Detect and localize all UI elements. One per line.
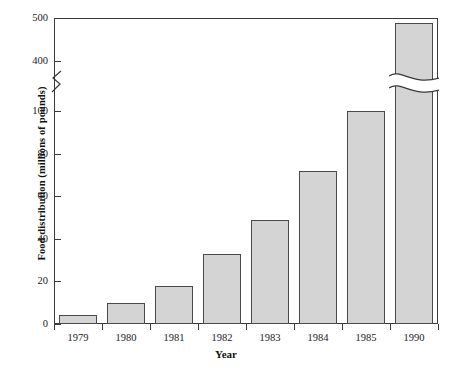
y-axis-break-icon (47, 70, 63, 94)
x-axis-title: Year (0, 348, 452, 360)
x-tick-mark (390, 324, 391, 330)
y-tick-label: 60 (0, 191, 48, 201)
bar-1985 (347, 111, 385, 324)
x-tick-mark (150, 324, 151, 330)
x-tick-mark (102, 324, 103, 330)
y-tick-mark (54, 196, 61, 197)
bar-1984 (299, 171, 337, 324)
y-tick-mark (54, 281, 61, 282)
x-tick-mark (246, 324, 247, 330)
y-tick-label: 0 (0, 319, 48, 329)
y-tick-label: 500 (0, 13, 48, 23)
y-tick-mark (54, 111, 61, 112)
y-tick-mark (54, 239, 61, 240)
y-tick-mark (54, 61, 61, 62)
x-tick-mark (294, 324, 295, 330)
x-tick-mark (198, 324, 199, 330)
y-tick-label: 80 (0, 149, 48, 159)
y-tick-label: 20 (0, 276, 48, 286)
bar-1979 (59, 315, 97, 324)
bar-1980 (107, 303, 145, 324)
bar-1982 (203, 254, 241, 324)
y-tick-label: 40 (0, 234, 48, 244)
y-tick-label: 100 (0, 106, 48, 116)
bar-1990 (395, 23, 433, 324)
x-tick-label-1990: 1990 (384, 332, 444, 343)
bar-1981 (155, 286, 193, 324)
bar-1983 (251, 220, 289, 324)
y-tick-label: 400 (0, 56, 48, 66)
y-tick-mark (54, 324, 61, 325)
y-tick-mark (54, 154, 61, 155)
x-tick-mark (342, 324, 343, 330)
y-axis-title: Food distribution (millions of pounds) (36, 49, 47, 299)
x-tick-mark (54, 324, 55, 330)
x-tick-mark (438, 324, 439, 330)
bar-chart: Food distribution (millions of pounds) 0… (0, 0, 452, 370)
